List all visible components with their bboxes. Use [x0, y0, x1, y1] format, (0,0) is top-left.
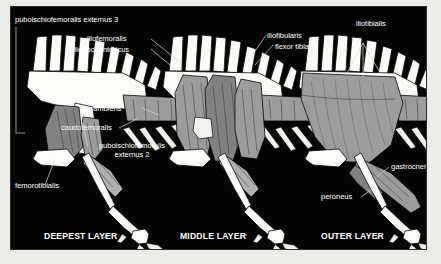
- caption-outer-layer: OUTER LAYER: [321, 231, 384, 241]
- label-caudofemoralis: caudofemoralis: [61, 123, 112, 132]
- label-ambiens: ambiens: [93, 104, 121, 113]
- label-iliofemoralis: iliofemoralis: [87, 34, 126, 43]
- label-peroneus: peroneus: [321, 192, 352, 201]
- label-puboischiofemoralis-externus-2: puboischiofemoralis externus 2: [89, 141, 175, 159]
- caption-middle-layer: MIDDLE LAYER: [180, 231, 246, 241]
- illustration-panel: puboischiofemoralis externus 3 iliofemor…: [10, 6, 427, 250]
- label-puboischiofemoralis-externus-3: puboischiofemoralis externus 3: [15, 15, 118, 24]
- label-iliotibialis: iliotibialis: [356, 19, 386, 28]
- label-flexor-tibialis: flexor tibialis: [275, 42, 316, 51]
- panel-outer-artwork: [299, 35, 426, 249]
- label-gastrocnemius: gastrocnemius: [391, 162, 427, 171]
- label-iliotrochantericus: iliotrochantericus: [73, 45, 129, 54]
- label-iliofibularis: iliofibularis: [267, 31, 302, 40]
- label-femorotibialis: femorotibialis: [15, 181, 59, 190]
- anatomical-figure: puboischiofemoralis externus 3 iliofemor…: [0, 0, 441, 264]
- caption-deepest-layer: DEEPEST LAYER: [44, 231, 117, 241]
